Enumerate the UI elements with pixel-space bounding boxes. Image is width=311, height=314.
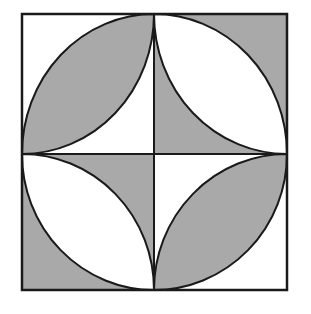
quadrant-bottom-right — [154, 154, 287, 290]
quadrant-top-right — [154, 14, 287, 154]
quadrant-bottom-left — [22, 154, 154, 290]
quadrant-top-left — [22, 14, 154, 154]
lens-top-left — [22, 14, 154, 154]
geometry-figure — [0, 0, 311, 314]
lens-bottom-right — [154, 154, 287, 290]
